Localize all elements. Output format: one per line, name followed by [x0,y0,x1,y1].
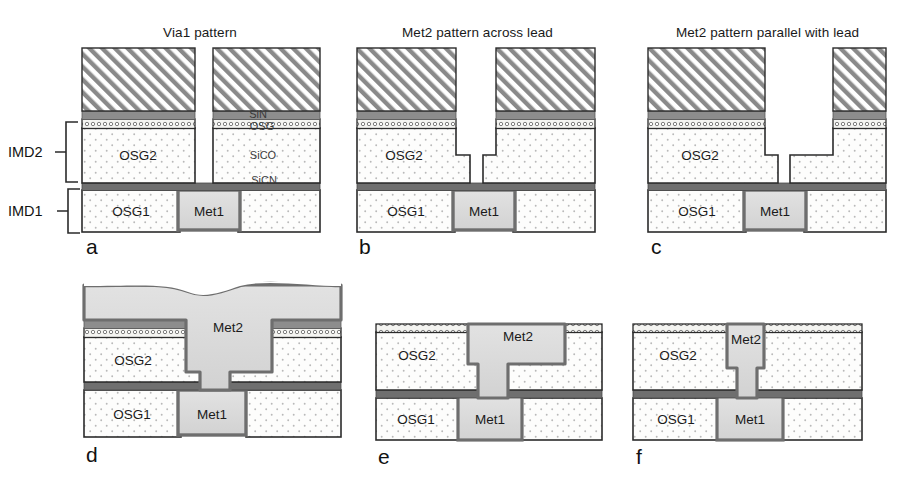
panel-c-title: Met2 pattern parallel with lead [640,25,895,40]
panel-b-imd2 [357,111,595,183]
panel-e-letter: e [378,446,390,467]
imd2-bracket-label: IMD2 [8,144,43,160]
imd1-bracket [57,189,80,233]
panel-f-label-osg1: OSG1 [657,412,695,427]
figure-canvas: OSG2 OSG1 Met1 SiN OSG SiCO SiCN [0,0,910,497]
panel-c-sicn-layer [648,183,886,191]
panel-a-label-osg1: OSG1 [112,204,150,219]
panel-a-photoresist [82,48,320,111]
imd2-bracket [55,122,78,182]
panel-e-label-osg1: OSG1 [397,412,435,427]
panel-d-label-met1: Met1 [197,407,227,422]
panel-e-cross-section: Met2 OSG2 OSG1 Met1 [376,324,602,440]
panel-a-label-osg2: OSG2 [119,148,157,163]
panel-b-title: Met2 pattern across lead [360,25,595,40]
panel-c-letter: c [651,236,662,257]
panel-c-photoresist [648,48,886,111]
panel-d-label-osg1: OSG1 [113,407,151,422]
panel-c-label-met1: Met1 [760,204,790,219]
panel-a-sicn-layer [82,183,320,191]
panel-b-cross-section: OSG2 OSG1 Met1 [357,48,595,232]
panel-a-label-met1: Met1 [194,204,224,219]
panel-c-label-osg2: OSG2 [681,148,719,163]
panel-e-label-met2: Met2 [503,329,533,344]
panel-a-annotation-sin: SiN [249,108,267,120]
panel-f-label-osg2: OSG2 [659,348,697,363]
panel-a-title: Via1 pattern [140,25,260,40]
panel-b-letter: b [359,236,371,257]
panel-e-label-osg2: OSG2 [398,348,436,363]
panel-b-photoresist [357,48,595,111]
panel-d-label-met2: Met2 [213,320,243,335]
panel-a-annotation-sico: SiCO [250,149,277,161]
panel-c-imd2 [648,111,886,183]
panel-c-label-osg1: OSG1 [678,204,716,219]
panel-f-label-met2: Met2 [731,332,761,347]
panel-d-letter: d [86,444,98,465]
panel-a-annotation-osg: OSG [250,120,274,132]
panel-d-cross-section: Met2 OSG2 OSG1 Met1 [84,282,341,437]
panel-a-letter: a [86,236,98,257]
panel-d-label-osg2: OSG2 [114,353,152,368]
panel-e-label-met1: Met1 [475,412,505,427]
imd1-bracket-label: IMD1 [8,203,43,219]
panel-a-cross-section: OSG2 OSG1 Met1 SiN OSG SiCO SiCN [82,48,320,232]
panel-a-imd2 [82,111,320,183]
panel-b-label-osg1: OSG1 [387,204,425,219]
panel-c-cross-section: OSG2 OSG1 Met1 [648,48,886,232]
panel-f-letter: f [636,446,642,467]
panel-a-annotation-sicn: SiCN [251,174,277,186]
panel-b-label-met1: Met1 [469,204,499,219]
panel-b-sicn-layer [357,183,595,191]
panel-b-label-osg2: OSG2 [385,148,423,163]
panel-f-label-met1: Met1 [735,412,765,427]
process-flow-cross-sections: OSG2 OSG1 Met1 SiN OSG SiCO SiCN [0,0,910,497]
imd-brackets [55,122,80,233]
panel-f-cross-section: Met2 OSG2 OSG1 Met1 [633,324,862,440]
